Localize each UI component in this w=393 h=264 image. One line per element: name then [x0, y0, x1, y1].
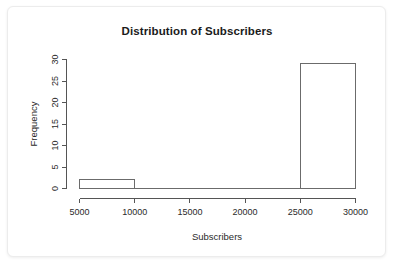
histogram-plot: Distribution of Subscribers 0 5 10 15 20… [8, 7, 386, 257]
y-tick-label-30: 30 [50, 54, 60, 64]
bars-group [80, 64, 356, 189]
x-tick-label-25000: 25000 [288, 207, 313, 217]
y-tick-label-10: 10 [50, 140, 60, 150]
x-tick-label-30000: 30000 [343, 207, 368, 217]
x-tick-label-5000: 5000 [69, 207, 89, 217]
histogram-bar-5000-10000 [80, 180, 135, 189]
x-axis: 5000 10000 15000 20000 25000 30000 Subsc… [69, 199, 368, 243]
x-axis-title: Subscribers [192, 231, 242, 242]
figure-card: Distribution of Subscribers 0 5 10 15 20… [7, 6, 386, 257]
y-axis: 0 5 10 15 20 25 30 Frequency [28, 54, 67, 191]
y-tick-label-15: 15 [50, 119, 60, 129]
x-tick-label-10000: 10000 [122, 207, 147, 217]
y-tick-label-5: 5 [50, 164, 60, 169]
y-axis-title: Frequency [28, 101, 39, 146]
x-tick-label-20000: 20000 [233, 207, 258, 217]
histogram-bar-25000-30000 [300, 64, 355, 189]
y-tick-label-0: 0 [50, 186, 60, 191]
y-tick-label-25: 25 [50, 76, 60, 86]
chart-title: Distribution of Subscribers [122, 25, 273, 37]
x-tick-label-15000: 15000 [177, 207, 202, 217]
y-tick-label-20: 20 [50, 97, 60, 107]
